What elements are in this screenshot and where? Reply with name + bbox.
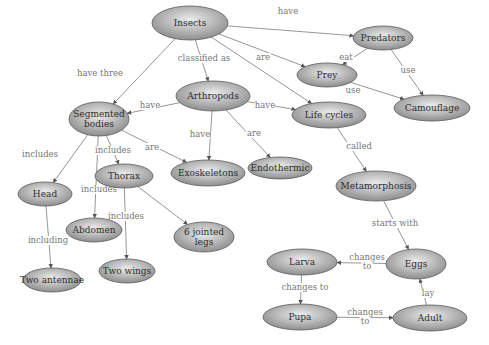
node-endothermic: Endothermic <box>248 157 312 179</box>
node-thorax: Thorax <box>95 164 153 188</box>
node-label: Two wings <box>103 266 152 276</box>
edge-label: eat <box>338 52 354 62</box>
node-adult: Adult <box>393 305 467 331</box>
node-label: Head <box>33 189 58 199</box>
node-metamorphosis: Metamorphosis <box>336 171 416 201</box>
svg-text:have three: have three <box>77 68 123 78</box>
svg-text:have: have <box>140 100 160 110</box>
node-label: Predators <box>361 33 406 43</box>
svg-text:includes: includes <box>22 149 58 159</box>
svg-text:includes: includes <box>108 211 144 221</box>
node-label: Adult <box>417 313 443 323</box>
node-segmented: Segmentedbodies <box>69 102 129 136</box>
svg-text:lay: lay <box>422 288 435 298</box>
edge-label: includes <box>107 211 146 221</box>
svg-text:are: are <box>145 142 159 152</box>
svg-text:called: called <box>346 141 372 151</box>
node-predators: Predators <box>353 26 413 50</box>
svg-text:have: have <box>278 6 298 16</box>
node-lifecycles: Life cycles <box>292 102 366 128</box>
svg-text:use: use <box>346 85 361 95</box>
node-label: Life cycles <box>305 110 354 120</box>
node-label: 6 jointed <box>184 227 224 237</box>
node-head: Head <box>18 182 72 206</box>
edge-label: called <box>344 141 374 151</box>
node-insects: Insects <box>152 6 228 40</box>
node-label: Segmented <box>73 109 125 119</box>
node-prey: Prey <box>297 63 357 87</box>
svg-text:use: use <box>401 65 416 75</box>
edge-label: use <box>400 65 416 75</box>
node-larva: Larva <box>267 249 337 275</box>
node-label: Endothermic <box>250 163 309 173</box>
edge-label: lay <box>420 288 436 298</box>
node-label: Metamorphosis <box>341 181 412 191</box>
node-label: Pupa <box>289 312 313 322</box>
node-wings: Two wings <box>99 259 155 283</box>
node-abdomen: Abdomen <box>66 218 122 242</box>
svg-text:includes: includes <box>95 145 131 155</box>
node-label: legs <box>195 237 214 247</box>
edge-label: changes to <box>281 282 329 292</box>
node-label: Thorax <box>108 171 140 181</box>
edge-label: starts with <box>369 218 422 228</box>
edge-label: classified as <box>173 53 235 63</box>
edge-label: changesto <box>347 307 383 326</box>
node-pupa: Pupa <box>263 304 337 330</box>
node-label: Two antennae <box>20 275 84 285</box>
svg-text:have: have <box>255 100 275 110</box>
node-camouflage: Camouflage <box>394 95 470 121</box>
svg-text:classified as: classified as <box>178 53 230 63</box>
svg-text:are: are <box>256 52 270 62</box>
svg-text:are: are <box>247 128 261 138</box>
node-label: Camouflage <box>405 103 459 113</box>
edge-label: including <box>26 235 69 245</box>
node-label: Arthropods <box>186 91 239 101</box>
svg-text:including: including <box>28 235 69 245</box>
edge-label: are <box>255 52 271 62</box>
nodes-layer: InsectsPredatorsPreyCamouflageArthropods… <box>18 6 470 331</box>
node-antennae: Two antennae <box>20 268 84 292</box>
svg-text:starts with: starts with <box>372 218 419 228</box>
node-label: Larva <box>289 257 316 267</box>
edge-label: have <box>278 6 298 16</box>
node-eggs: Eggs <box>386 249 446 279</box>
edge-label: changesto <box>349 252 385 271</box>
node-label: bodies <box>84 119 114 129</box>
node-label: Abdomen <box>71 225 115 235</box>
node-legs: 6 jointedlegs <box>174 222 234 252</box>
edge-label: includes <box>21 149 60 159</box>
node-label: Exoskeletons <box>178 168 238 178</box>
svg-text:changes to: changes to <box>282 282 329 292</box>
edge-label: are <box>246 128 262 138</box>
edge-label: are <box>144 142 160 152</box>
edge-label: includes <box>94 145 133 155</box>
edge-label: have <box>255 100 275 110</box>
svg-text:to: to <box>363 261 372 271</box>
node-label: Insects <box>174 18 207 28</box>
edge-label: have three <box>76 68 124 78</box>
edge-label: use <box>345 85 361 95</box>
svg-text:to: to <box>361 316 370 326</box>
node-exoskeletons: Exoskeletons <box>171 160 245 186</box>
edge-insects-predators <box>227 26 353 36</box>
node-label: Prey <box>317 70 339 80</box>
edge-label: have <box>140 100 160 110</box>
edge-label: have <box>190 129 210 139</box>
edge-thorax-wings <box>124 188 126 259</box>
svg-text:have: have <box>190 129 210 139</box>
svg-text:eat: eat <box>339 52 353 62</box>
node-arthropods: Arthropods <box>176 81 250 111</box>
node-label: Eggs <box>405 259 428 269</box>
concept-map: haveareclassified ashave threeeatuseuseh… <box>0 0 489 345</box>
